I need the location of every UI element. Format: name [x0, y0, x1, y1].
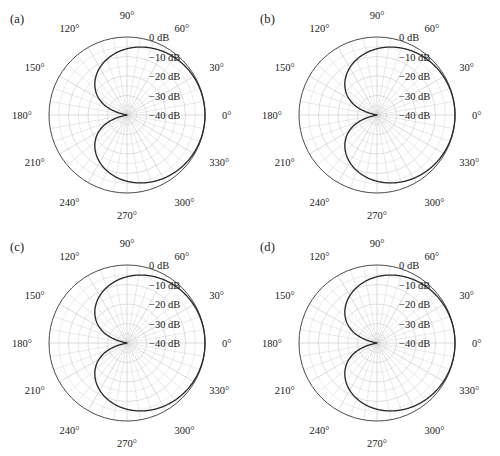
radial-tick-label: −10 dB — [149, 52, 180, 63]
angle-tick-label: 240° — [60, 197, 80, 208]
angle-tick-label: 60° — [425, 251, 440, 262]
angle-tick-label: 330° — [459, 385, 479, 396]
angle-tick-label: 180° — [262, 338, 282, 349]
angle-tick-label: 210° — [25, 157, 45, 168]
angle-tick-label: 30° — [209, 62, 224, 73]
radial-tick-label: −20 dB — [149, 299, 180, 310]
angle-tick-label: 240° — [310, 197, 330, 208]
angle-tick-label: 330° — [209, 385, 229, 396]
angle-tick-label: 90° — [370, 10, 385, 21]
radial-tick-label: −30 dB — [399, 319, 430, 330]
panel-c: (c) 0°30°60°90°120°150°180°210°240°270°3… — [0, 228, 250, 456]
angle-tick-label: 30° — [209, 290, 224, 301]
angle-tick-label: 90° — [120, 238, 135, 249]
angle-tick-label: 0° — [472, 110, 481, 121]
angle-tick-label: 150° — [275, 290, 295, 301]
radial-tick-label: −40 dB — [399, 338, 430, 349]
polar-plot-a: 0°30°60°90°120°150°180°210°240°270°300°3… — [0, 0, 250, 228]
polar-plot-d: 0°30°60°90°120°150°180°210°240°270°300°3… — [250, 228, 500, 456]
angle-tick-label: 30° — [459, 62, 474, 73]
angle-tick-label: 240° — [310, 425, 330, 436]
angle-tick-label: 330° — [459, 157, 479, 168]
angle-tick-label: 270° — [367, 210, 387, 221]
angle-tick-label: 120° — [310, 23, 330, 34]
panel-b: (b) 0°30°60°90°120°150°180°210°240°270°3… — [250, 0, 500, 228]
radial-tick-label: −10 dB — [149, 280, 180, 291]
angle-tick-label: 210° — [275, 157, 295, 168]
angle-tick-label: 180° — [262, 110, 282, 121]
angle-tick-label: 0° — [472, 338, 481, 349]
angle-tick-label: 210° — [25, 385, 45, 396]
angle-tick-label: 150° — [25, 62, 45, 73]
angle-tick-label: 150° — [25, 290, 45, 301]
radial-tick-label: −40 dB — [149, 110, 180, 121]
angle-tick-label: 90° — [120, 10, 135, 21]
panel-a: (a) 0°30°60°90°120°150°180°210°240°270°3… — [0, 0, 250, 228]
angle-tick-label: 120° — [310, 251, 330, 262]
polar-axes: 0°30°60°90°120°150°180°210°240°270°300°3… — [0, 0, 250, 228]
radial-tick-label: 0 dB — [399, 260, 419, 271]
angle-tick-label: 270° — [117, 210, 137, 221]
polar-pattern-figure: (a) 0°30°60°90°120°150°180°210°240°270°3… — [0, 0, 500, 456]
radial-tick-label: 0 dB — [149, 32, 169, 43]
polar-plot-b: 0°30°60°90°120°150°180°210°240°270°300°3… — [250, 0, 500, 228]
radial-tick-label: −30 dB — [399, 91, 430, 102]
radial-tick-label: −30 dB — [149, 319, 180, 330]
radial-tick-label: −20 dB — [149, 71, 180, 82]
angle-tick-label: 300° — [425, 425, 445, 436]
polar-axes: 0°30°60°90°120°150°180°210°240°270°300°3… — [250, 0, 500, 228]
panel-d: (d) 0°30°60°90°120°150°180°210°240°270°3… — [250, 228, 500, 456]
angle-tick-label: 30° — [459, 290, 474, 301]
angle-tick-label: 90° — [370, 238, 385, 249]
angle-tick-label: 300° — [175, 197, 195, 208]
radial-tick-label: −20 dB — [399, 299, 430, 310]
polar-axes: 0°30°60°90°120°150°180°210°240°270°300°3… — [0, 228, 250, 456]
angle-tick-label: 270° — [367, 438, 387, 449]
radial-tick-label: −10 dB — [399, 52, 430, 63]
angle-tick-label: 150° — [275, 62, 295, 73]
radial-tick-label: −40 dB — [399, 110, 430, 121]
polar-plot-c: 0°30°60°90°120°150°180°210°240°270°300°3… — [0, 228, 250, 456]
angle-tick-label: 270° — [117, 438, 137, 449]
angle-tick-label: 0° — [222, 338, 231, 349]
angle-tick-label: 180° — [12, 338, 32, 349]
angle-tick-label: 60° — [175, 251, 190, 262]
angle-tick-label: 0° — [222, 110, 231, 121]
angle-tick-label: 120° — [60, 23, 80, 34]
radial-tick-label: 0 dB — [399, 32, 419, 43]
angle-tick-label: 300° — [425, 197, 445, 208]
angle-tick-label: 120° — [60, 251, 80, 262]
polar-axes: 0°30°60°90°120°150°180°210°240°270°300°3… — [250, 228, 500, 456]
radial-tick-label: −10 dB — [399, 280, 430, 291]
radial-tick-label: −30 dB — [149, 91, 180, 102]
angle-tick-label: 60° — [425, 23, 440, 34]
radial-tick-label: −40 dB — [149, 338, 180, 349]
angle-tick-label: 180° — [12, 110, 32, 121]
radial-tick-label: 0 dB — [149, 260, 169, 271]
radial-tick-label: −20 dB — [399, 71, 430, 82]
angle-tick-label: 300° — [175, 425, 195, 436]
angle-tick-label: 60° — [175, 23, 190, 34]
angle-tick-label: 240° — [60, 425, 80, 436]
angle-tick-label: 210° — [275, 385, 295, 396]
angle-tick-label: 330° — [209, 157, 229, 168]
